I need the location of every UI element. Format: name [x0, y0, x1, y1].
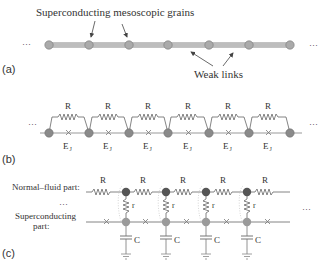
ellipsis-left-b: ···	[28, 119, 37, 129]
svg-text:EJ: EJ	[223, 141, 233, 152]
panel-c-label: (c)	[2, 247, 15, 259]
normal-fluid-label: Normal–fluid part:	[12, 182, 80, 192]
normal-resistor-chain	[86, 189, 290, 195]
svg-text:C: C	[174, 235, 180, 245]
diagram-canvas: Superconducting mesoscopic grains ··· ··…	[0, 0, 332, 274]
svg-text:C: C	[134, 235, 140, 245]
svg-text:R: R	[65, 101, 71, 111]
resistor-labels-b: R R R R R R	[65, 101, 271, 111]
panel-b: ··· R R R R R R EJ EJ	[2, 101, 318, 165]
svg-text:R: R	[185, 101, 191, 111]
arrow-weak-1	[191, 52, 213, 66]
ellipsis-right-b: ···	[309, 119, 318, 129]
svg-text:R: R	[262, 175, 268, 185]
junction-labels-b: EJ EJ EJ EJ EJ EJ	[63, 141, 273, 152]
svg-text:R: R	[105, 101, 111, 111]
weak-links-label: Weak links	[194, 68, 243, 80]
svg-text:r: r	[212, 201, 215, 210]
svg-text:r: r	[253, 201, 256, 210]
superconducting-label-1: Superconducting	[15, 211, 76, 221]
panel-a: Superconducting mesoscopic grains ··· ··…	[2, 6, 318, 80]
resistor-labels-c: R R R R R	[100, 175, 268, 185]
svg-text:EJ: EJ	[103, 141, 113, 152]
svg-text:C: C	[214, 235, 220, 245]
superconducting-label-2: part:	[33, 221, 50, 231]
svg-text:R: R	[100, 175, 106, 185]
ellipsis-right-c: ···	[302, 204, 311, 214]
panel-c: Normal–fluid part: ··· Superconducting p…	[2, 175, 311, 259]
svg-text:EJ: EJ	[183, 141, 193, 152]
arrow-grain-1	[91, 21, 95, 37]
svg-text:C: C	[255, 235, 261, 245]
panel-b-label: (b)	[2, 153, 15, 165]
svg-text:R: R	[145, 101, 151, 111]
svg-text:r: r	[172, 201, 175, 210]
svg-text:R: R	[225, 101, 231, 111]
svg-text:R: R	[180, 175, 186, 185]
svg-text:R: R	[140, 175, 146, 185]
arrow-grain-2	[122, 24, 127, 37]
grains-title: Superconducting mesoscopic grains	[36, 6, 194, 18]
ellipsis-right-a: ···	[309, 40, 318, 50]
arrow-weak-2	[223, 53, 233, 66]
svg-text:EJ: EJ	[143, 141, 153, 152]
svg-text:EJ: EJ	[263, 141, 273, 152]
shunt-branches: r C r C	[118, 186, 261, 259]
svg-text:R: R	[265, 101, 271, 111]
svg-text:EJ: EJ	[63, 141, 73, 152]
svg-text:R: R	[220, 175, 226, 185]
svg-text:r: r	[132, 201, 135, 210]
panel-a-label: (a)	[2, 63, 15, 75]
ellipsis-left-a: ···	[22, 39, 31, 49]
ellipsis-mid-c: ···	[59, 199, 68, 209]
